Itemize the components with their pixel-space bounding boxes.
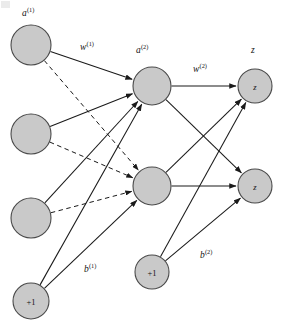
- node-circle: [133, 67, 171, 105]
- node-label: z: [252, 82, 257, 92]
- node-circle: [11, 25, 51, 65]
- node-input-bias: +1: [13, 283, 49, 319]
- node-input-3: [11, 198, 51, 238]
- edge-input_bias-to-hidden_2: [44, 200, 136, 288]
- label-weights-layer1: w(1): [80, 40, 94, 52]
- label-bias-layer1: b(1): [84, 262, 96, 274]
- node-label: z: [252, 182, 257, 192]
- node-layer: +1+1zz: [11, 25, 272, 319]
- label-output-z: z: [251, 45, 255, 55]
- node-circle: [11, 198, 51, 238]
- edge-input_bias-to-hidden_1: [40, 104, 142, 285]
- node-output-2: z: [238, 169, 272, 203]
- edge-hidden_bias-to-output_1: [160, 103, 245, 257]
- node-hidden-bias: +1: [135, 255, 169, 289]
- node-label: +1: [147, 268, 156, 278]
- node-input-2: [11, 114, 51, 154]
- node-label: +1: [26, 297, 35, 307]
- label-hidden-activation: a(2): [136, 43, 148, 55]
- label-bias-layer2: b(2): [200, 248, 212, 260]
- node-hidden-2: [133, 167, 171, 205]
- label-weights-layer2: w(2): [193, 62, 207, 74]
- node-hidden-1: [133, 67, 171, 105]
- node-input-1: [11, 25, 51, 65]
- edge-input_1-to-hidden_1: [50, 52, 132, 80]
- label-input-activation: a(1): [22, 6, 34, 18]
- node-circle: [133, 167, 171, 205]
- edge-input_3-to-hidden_1: [45, 101, 138, 202]
- node-output-1: z: [238, 69, 272, 103]
- diagram-canvas: +1+1zz a(1) w(1) a(2) w(2) z b(1) b(2): [0, 0, 290, 335]
- edge-input_2-to-hidden_2: [50, 142, 133, 178]
- node-circle: [11, 114, 51, 154]
